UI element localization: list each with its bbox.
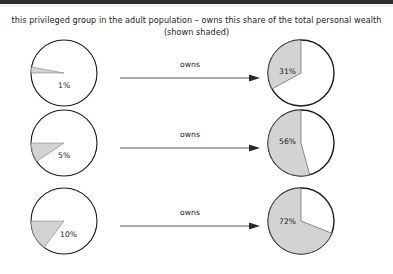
population-pie-2-svg bbox=[29, 108, 99, 178]
comparison-row: 5% owns 56% bbox=[0, 108, 393, 178]
owns-arrow-2-label: owns bbox=[120, 130, 260, 139]
arrow-head bbox=[249, 74, 260, 81]
owns-arrow-1: owns bbox=[120, 62, 260, 86]
owns-arrow-1-label: owns bbox=[120, 60, 260, 69]
population-pie-1-svg bbox=[29, 38, 99, 108]
population-pie-1-label: 1% bbox=[58, 81, 70, 90]
caption-line-secondary: (shown shaded) bbox=[0, 26, 393, 38]
population-pie-3: 10% bbox=[29, 186, 99, 256]
wealth-pie-3: 72% bbox=[266, 186, 336, 256]
caption-line-primary: this privileged group in the adult popul… bbox=[0, 14, 393, 26]
arrow-head bbox=[249, 144, 260, 151]
wealth-pie-1: 31% bbox=[266, 38, 336, 108]
wealth-pie-2-label: 56% bbox=[279, 137, 296, 146]
wealth-pie-3-label: 72% bbox=[279, 217, 296, 226]
comparison-row: 10% owns 72% bbox=[0, 186, 393, 256]
wealth-pie-1-svg bbox=[266, 38, 336, 108]
owns-arrow-3-label: owns bbox=[120, 208, 260, 217]
wealth-pie-2-svg bbox=[266, 108, 336, 178]
wealth-pie-2: 56% bbox=[266, 108, 336, 178]
wealth-distribution-figure: this privileged group in the adult popul… bbox=[0, 0, 393, 274]
owns-arrow-2: owns bbox=[120, 132, 260, 156]
figure-caption: this privileged group in the adult popul… bbox=[0, 14, 393, 38]
scan-edge-fade bbox=[0, 4, 393, 7]
population-pie-2: 5% bbox=[29, 108, 99, 178]
comparison-row: 1% owns 31% bbox=[0, 38, 393, 108]
population-pie-1: 1% bbox=[29, 38, 99, 108]
population-pie-3-svg bbox=[29, 186, 99, 256]
population-pie-2-label: 5% bbox=[58, 151, 70, 160]
arrow-head bbox=[249, 222, 260, 229]
wealth-pie-3-svg bbox=[266, 186, 336, 256]
population-pie-3-label: 10% bbox=[60, 230, 77, 239]
owns-arrow-3: owns bbox=[120, 210, 260, 234]
wealth-pie-1-label: 31% bbox=[279, 67, 296, 76]
